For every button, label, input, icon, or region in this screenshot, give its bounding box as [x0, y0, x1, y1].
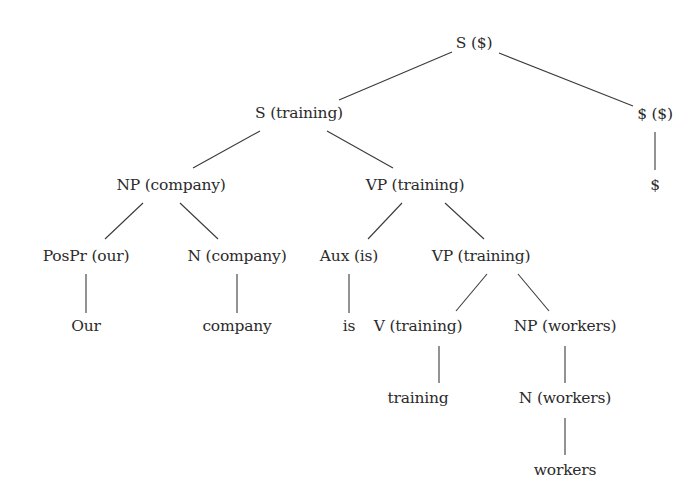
node-v-training: V (training) [374, 317, 463, 335]
node-n-workers: N (workers) [519, 389, 611, 407]
node-s-training: S (training) [255, 104, 343, 122]
leaf-training: training [387, 389, 448, 407]
tree-edge [105, 203, 143, 239]
node-dollar: $ ($) [637, 105, 673, 123]
node-np-workers: NP (workers) [514, 317, 617, 335]
tree-edge [456, 274, 487, 311]
node-vp-training-inner: VP (training) [432, 247, 531, 265]
node-aux-is: Aux (is) [320, 247, 378, 265]
tree-edge [180, 203, 218, 239]
tree-edge [499, 53, 633, 106]
tree-edge [518, 274, 549, 311]
tree-edge [327, 131, 393, 168]
node-s-root: S ($) [456, 34, 493, 52]
leaf-workers: workers [534, 461, 597, 479]
node-pospr-our: PosPr (our) [43, 247, 129, 265]
leaf-our: Our [71, 317, 101, 335]
node-n-company: N (company) [188, 247, 287, 265]
leaf-company: company [202, 317, 271, 335]
leaf-is: is [343, 317, 356, 335]
tree-edge [339, 52, 452, 100]
tree-edge [445, 203, 484, 239]
tree-edge [193, 131, 260, 168]
node-vp-training: VP (training) [366, 176, 465, 194]
node-np-company: NP (company) [116, 176, 225, 194]
leaf-dollar: $ [650, 176, 660, 194]
tree-edge [368, 203, 402, 239]
